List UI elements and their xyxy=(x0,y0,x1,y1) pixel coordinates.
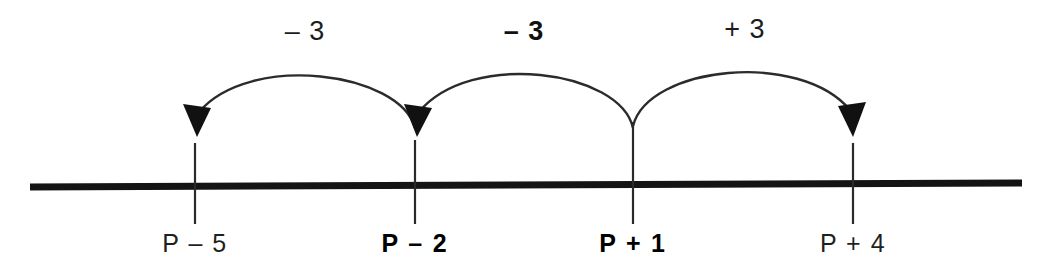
jump-label-3: + 3 xyxy=(724,14,765,45)
number-line-diagram: – 3 – 3 + 3 P – 5 P – 2 P + 1 P + 4 xyxy=(0,0,1052,271)
tick-label-p-plus-4: P + 4 xyxy=(820,229,886,258)
tick-label-p-plus-1: P + 1 xyxy=(599,229,667,258)
jump-arc-1 xyxy=(183,75,415,137)
jump-arc-2-path xyxy=(419,74,633,128)
jump-arc-3 xyxy=(633,72,866,137)
jump-arc-3-path xyxy=(633,72,850,126)
tick-label-p-minus-5: P – 5 xyxy=(162,229,227,258)
tick-label-p-minus-2: P – 2 xyxy=(382,229,449,258)
jump-arc-3-arrowhead xyxy=(838,102,866,137)
jump-arc-1-arrowhead xyxy=(183,104,211,137)
jump-label-1: – 3 xyxy=(285,16,326,47)
jump-label-2: – 3 xyxy=(504,16,545,47)
jump-arc-2 xyxy=(404,74,633,137)
jump-arc-1-path xyxy=(199,75,415,128)
jump-arc-2-arrowhead xyxy=(404,104,432,137)
number-line-axis xyxy=(30,183,1022,187)
